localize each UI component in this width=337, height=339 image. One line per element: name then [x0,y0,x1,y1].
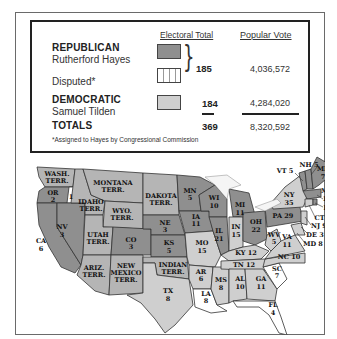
label-ga: GA [256,275,268,283]
svg-text:35: 35 [284,199,294,207]
label-in: IN [232,223,241,231]
totals-label: TOTALS [52,120,92,131]
label-vt: VT 5 [276,167,294,175]
totals-popular-vote: 8,320,592 [250,122,290,132]
svg-text:10: 10 [235,283,245,291]
state-ct [305,199,313,207]
us-electoral-map: WASH. TERR. OR 2 1 CA 6 NV 3 IDAHO TERR.… [15,155,325,335]
label-il: IL [215,227,223,235]
label-wi: WI [208,194,219,202]
svg-text:11: 11 [235,209,244,217]
svg-text:13: 13 [322,195,325,203]
svg-text:6: 6 [199,275,204,283]
svg-text:TERR.: TERR. [102,186,125,194]
svg-text:11: 11 [191,220,200,228]
svg-text:3: 3 [163,226,168,234]
svg-text:8: 8 [219,284,224,292]
svg-text:10: 10 [209,202,219,210]
brace-icon: } [183,42,194,72]
svg-text:15: 15 [231,231,241,239]
svg-text:TERR.: TERR. [80,205,103,213]
svg-text:8: 8 [166,295,171,303]
label-mo: MO [196,239,209,247]
democratic-candidate: Samuel Tilden [52,106,115,117]
democratic-party-label: DEMOCRATIC [52,94,121,105]
svg-text:6: 6 [39,245,44,253]
svg-text:2: 2 [51,196,56,204]
svg-text:TERR.: TERR. [83,271,106,279]
label-ms: MS [215,276,227,284]
footnote: *Assigned to Hayes by Congressional Comm… [52,136,198,143]
totals-electoral: 369 [202,121,218,132]
label-fl: FL [268,301,278,309]
svg-text:4: 4 [271,309,276,317]
disputed-swatch [157,68,181,83]
republican-popular-vote: 4,036,572 [250,64,290,74]
svg-text:15: 15 [197,247,207,255]
label-ca: CA [36,237,47,245]
disputed-label: Disputed* [52,76,95,87]
label-me: ME [317,165,325,173]
label-ny: NY [284,191,295,199]
svg-text:5: 5 [272,238,277,246]
label-ri: RI 4 [323,204,325,212]
label-al: AL [234,275,245,283]
label-md: MD 8 [303,240,323,248]
state-fl [233,301,287,335]
svg-text:8: 8 [204,297,209,305]
svg-text:7: 7 [321,173,325,181]
svg-text:3: 3 [60,231,65,239]
svg-text:22: 22 [251,226,260,234]
label-ks: KS [164,239,175,247]
democratic-electoral: 184 [202,98,218,109]
popular-underline [242,113,299,115]
label-mi: MI [235,201,245,209]
svg-text:5: 5 [167,247,172,255]
svg-text:11: 11 [256,283,265,291]
svg-text:TERR.: TERR. [111,214,134,222]
svg-text:21: 21 [214,235,223,243]
label-pa: PA 29 [273,212,294,220]
label-va: VA [281,233,293,241]
svg-text:11: 11 [282,241,291,249]
popular-vote-header: Popular Vote [240,30,292,40]
label-oh: OH [250,218,262,226]
label-nv: NV [57,223,69,231]
combined-electoral-total: 185 [196,63,212,74]
svg-text:TERR.: TERR. [115,276,138,284]
label-tn: TN 12 [233,261,255,269]
label-ma: MA [321,187,325,195]
svg-text:7: 7 [275,272,280,280]
republican-party-label: REPUBLICAN [52,42,120,53]
label-or-disputed: 1 [69,193,74,201]
label-nj: NJ 9 [311,222,325,230]
label-ct: CT 6 [315,214,325,222]
label-tx: TX [163,287,174,295]
svg-text:TERR.: TERR. [162,268,185,276]
label-ky: KY 12 [235,249,256,257]
democratic-swatch [157,95,181,110]
svg-text:5: 5 [188,194,193,202]
republican-swatch [157,44,181,59]
svg-text:3: 3 [129,243,134,251]
legend-box: Electoral Total Popular Vote REPUBLICAN … [30,20,310,153]
democratic-popular-vote: 4,284,020 [250,98,290,108]
label-de: DE 3 [306,231,324,239]
state-ri [313,199,317,205]
republican-candidate: Rutherford Hayes [52,54,130,65]
label-nc: NC 10 [278,253,301,261]
svg-text:TERR.: TERR. [150,199,173,207]
svg-text:TERR.: TERR. [46,177,69,185]
svg-text:TERR.: TERR. [87,238,110,246]
electoral-underline [202,113,214,115]
